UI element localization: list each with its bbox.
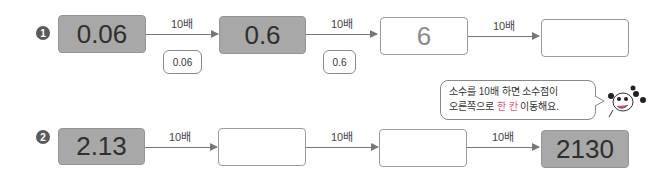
- problem1-arrow-2: [306, 34, 377, 35]
- problem1-arrow-3: [468, 36, 539, 37]
- problem2-arrow-1: [145, 147, 217, 148]
- tip-line-1: 소수를 10배 하면 소수점이: [449, 84, 587, 99]
- tip-highlight: 한 칸: [497, 101, 518, 112]
- problem2-box-3[interactable]: [379, 129, 467, 167]
- problem1-arrow-2-label: 10배: [312, 15, 372, 31]
- problem1-box-2: 0.6: [219, 16, 306, 54]
- problem2-arrow-2: [306, 147, 378, 148]
- tip-line-2-start: 오른쪽으로: [449, 101, 497, 112]
- problem1-arrow-3-label: 10배: [474, 17, 534, 33]
- problem1-box-4[interactable]: [541, 19, 629, 57]
- problem2-box-1: 2.13: [58, 128, 145, 165]
- problem1-box-3[interactable]: 6: [380, 17, 468, 55]
- problem1-hint-2: 0.6: [323, 50, 356, 74]
- problem1-arrow-1-label: 10배: [152, 15, 212, 31]
- problem2-arrow-2-label: 10배: [312, 128, 372, 144]
- tip-line-2-end: 이동해요.: [518, 101, 560, 112]
- problem-number-1: 1: [36, 26, 50, 40]
- problem1-arrow-1: [146, 34, 218, 35]
- problem1-hint-1: 0.06: [163, 50, 202, 74]
- problem2-arrow-3: [467, 147, 539, 148]
- problem2-arrow-1-label: 10배: [150, 128, 210, 144]
- problem2-box-4: 2130: [541, 130, 629, 168]
- problem-number-2: 2: [36, 130, 50, 144]
- cartoon-character-icon: [603, 84, 653, 120]
- problem1-box-1: 0.06: [58, 15, 146, 53]
- problem2-box-2[interactable]: [218, 128, 306, 166]
- tip-line-2: 오른쪽으로 한 칸 이동해요.: [449, 99, 587, 114]
- tip-speech-bubble: 소수를 10배 하면 소수점이 오른쪽으로 한 칸 이동해요.: [440, 80, 596, 120]
- problem2-arrow-3-label: 10배: [473, 128, 533, 144]
